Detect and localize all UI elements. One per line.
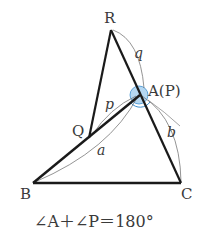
geometry-diagram: R Q A(P) B C q p a b ∠A＋∠P＝180°: [0, 0, 212, 244]
label-b: B: [20, 185, 31, 203]
label-c: C: [181, 185, 192, 203]
segment-ba: [33, 95, 140, 183]
equation-label: ∠A＋∠P＝180°: [34, 212, 154, 231]
label-q: Q: [72, 122, 84, 140]
label-side-b: b: [167, 124, 176, 140]
label-a-p: A(P): [147, 82, 181, 100]
label-side-q: q: [134, 45, 143, 61]
label-side-p: p: [105, 96, 114, 112]
label-r: R: [104, 9, 116, 27]
label-side-a: a: [97, 142, 105, 158]
segment-rc: [111, 30, 181, 183]
